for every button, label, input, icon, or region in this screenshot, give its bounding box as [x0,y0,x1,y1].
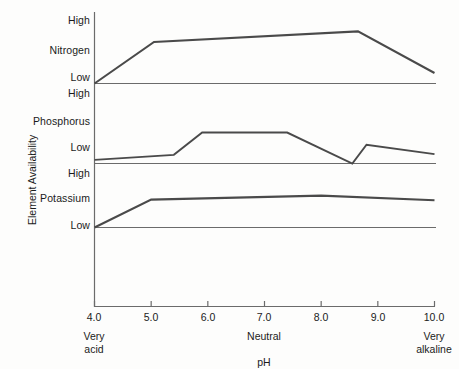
series-line-nitrogen [95,31,435,83]
x-tick-label-4: 4.0 [74,311,114,323]
potassium-name-label: Potassium [5,192,90,204]
x-tick-label-5: 5.0 [131,311,171,323]
panel-baselines [94,84,436,228]
nitrogen-high-label: High [20,14,90,26]
x-caption-neutral: Neutral [238,330,290,343]
x-tick-label-7: 7.0 [244,311,284,323]
x-tick-label-10: 10.0 [414,311,454,323]
x-tick-label-6: 6.0 [188,311,228,323]
chart-container: Element Availability High Nitrogen Low H… [0,0,459,369]
phosphorus-name-label: Phosphorus [0,115,90,127]
x-tick-label-9: 9.0 [358,311,398,323]
x-tick-label-8: 8.0 [301,311,341,323]
phosphorus-high-label: High [20,87,90,99]
potassium-high-label: High [20,167,90,179]
potassium-low-label: Low [20,219,90,231]
series-line-phosphorus [95,133,435,164]
x-axis-ticks [95,301,435,307]
x-caption-very-acid-line2: acid [74,343,114,356]
series-line-potassium [95,196,435,228]
x-caption-very-alkaline-line1: Very [408,330,459,343]
x-axis-title: pH [238,356,290,369]
x-caption-very-acid-line1: Very [74,330,114,343]
nitrogen-low-label: Low [20,71,90,83]
x-caption-very-alkaline-line2: alkaline [408,343,459,356]
nitrogen-name-label: Nitrogen [10,44,90,56]
phosphorus-low-label: Low [20,141,90,153]
